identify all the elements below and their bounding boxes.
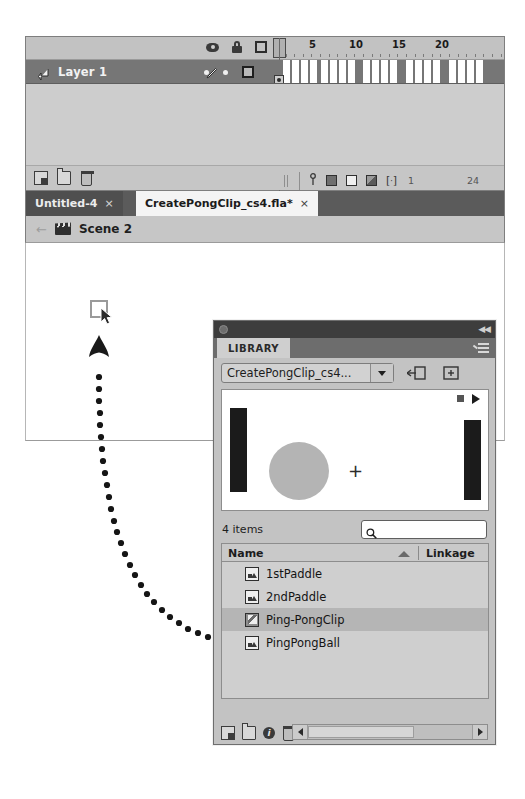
lock-dot[interactable] [223, 70, 228, 75]
list-item-label: 1stPaddle [266, 567, 322, 581]
library-footer: i [214, 721, 495, 744]
outline-color-swatch[interactable] [242, 66, 254, 78]
list-item[interactable]: 2ndPaddle [222, 585, 488, 608]
pencil-icon [204, 66, 218, 80]
arrow-cursor-icon [100, 307, 116, 327]
library-document-name: CreatePongClip_cs4... [222, 366, 351, 380]
library-title-bar[interactable]: ◀◀ [214, 321, 495, 338]
timeline-footer: [·] 1 24 [26, 165, 504, 190]
list-item-label: Ping-PongClip [266, 613, 344, 627]
play-button-icon[interactable] [472, 394, 480, 404]
stop-button-icon[interactable] [457, 395, 464, 402]
onion-skin-icon[interactable] [326, 175, 337, 186]
keyframe-marker[interactable] [274, 75, 284, 83]
scene-name-label[interactable]: Scene 2 [79, 222, 132, 236]
horizontal-scrollbar[interactable] [292, 724, 488, 740]
modify-onion-markers-icon[interactable]: [·] [386, 175, 399, 186]
clapper-board-icon [55, 223, 71, 235]
new-symbol-icon[interactable] [221, 726, 235, 740]
panel-menu-icon[interactable] [473, 343, 489, 353]
panel-grip-icon [284, 175, 290, 187]
layer-list-empty-area [26, 84, 273, 165]
list-item-label: PingPongBall [266, 636, 340, 650]
preview-ball [269, 442, 329, 500]
column-linkage-label[interactable]: Linkage [426, 547, 475, 560]
library-item-list[interactable]: 1stPaddle 2ndPaddle Ping-PongClip PingPo… [221, 562, 489, 699]
timeline-panel: 1 5 10 15 20 Layer 1 [25, 36, 505, 191]
library-document-select[interactable]: CreatePongClip_cs4... [221, 363, 394, 383]
list-item[interactable]: PingPongBall [222, 631, 488, 654]
tab-untitled-4[interactable]: Untitled-4 × [26, 191, 123, 216]
edit-multiple-frames-icon[interactable] [366, 175, 377, 186]
drag-direction-arrow [86, 335, 112, 369]
library-tab-bar: LIBRARY [214, 338, 495, 358]
pin-current-library-icon[interactable] [407, 364, 426, 382]
layer-column-header [26, 37, 273, 59]
layer-row-icons [204, 66, 254, 78]
collapse-panel-icon[interactable]: ◀◀ [478, 324, 490, 334]
scroll-right-arrow[interactable] [472, 725, 487, 739]
lock-icon[interactable] [232, 41, 242, 53]
panel-grip-icon [219, 325, 228, 334]
registration-cross-icon: + [348, 462, 363, 480]
preview-paddle-right [464, 420, 481, 500]
library-document-row: CreatePongClip_cs4... [214, 358, 495, 388]
timeline-header: 1 5 10 15 20 [26, 37, 504, 60]
close-icon[interactable]: × [104, 197, 113, 210]
new-folder-icon[interactable] [242, 726, 256, 740]
ruler-tick-15: 15 [392, 39, 406, 50]
sort-ascending-icon[interactable] [398, 551, 410, 557]
tab-createpongclip[interactable]: CreatePongClip_cs4.fla* × [136, 191, 318, 216]
library-preview[interactable]: + [221, 389, 489, 511]
tab-library[interactable]: LIBRARY [217, 338, 290, 358]
divider [299, 172, 300, 190]
outline-square-icon[interactable] [255, 41, 267, 53]
edit-bar: ← Scene 2 [25, 216, 505, 243]
ruler-tick-marks [273, 52, 504, 57]
tab-label: Untitled-4 [35, 197, 97, 210]
list-item[interactable]: 1stPaddle [222, 562, 488, 585]
search-input[interactable] [361, 520, 487, 539]
new-library-panel-icon[interactable] [442, 364, 461, 382]
layer-row-layer1[interactable]: Layer 1 [26, 60, 504, 84]
graphic-symbol-icon [245, 567, 259, 581]
scroll-left-arrow[interactable] [293, 725, 308, 739]
center-frame-icon[interactable] [309, 171, 317, 190]
new-layer-icon[interactable] [34, 171, 48, 185]
back-arrow-icon[interactable]: ← [36, 222, 47, 237]
close-icon[interactable]: × [300, 197, 309, 210]
library-footer-icons: i [221, 726, 296, 740]
movieclip-symbol-icon [245, 613, 259, 627]
item-count-label: 4 items [222, 523, 263, 536]
layer-name-label: Layer 1 [58, 65, 107, 79]
frame-strip[interactable] [273, 60, 504, 83]
search-icon [366, 524, 377, 535]
delete-layer-icon[interactable] [80, 171, 94, 185]
column-divider [418, 546, 419, 560]
library-panel: ◀◀ LIBRARY CreatePongClip_cs4... [213, 320, 496, 745]
current-frame-number: 1 [408, 175, 414, 186]
onion-skin-outlines-icon[interactable] [346, 175, 357, 186]
library-items-row: 4 items [214, 517, 495, 543]
scrollbar-thumb[interactable] [308, 726, 414, 738]
ruler-tick-20: 20 [435, 39, 449, 50]
chevron-down-icon[interactable] [370, 364, 393, 382]
graphic-symbol-icon [245, 636, 259, 650]
frame-ruler[interactable]: 1 5 10 15 20 [273, 37, 504, 59]
timeline-footer-left [34, 171, 94, 185]
tab-label: CreatePongClip_cs4.fla* [145, 197, 293, 210]
ruler-tick-5: 5 [309, 39, 316, 50]
eye-icon[interactable] [206, 43, 219, 52]
list-item-selected[interactable]: Ping-PongClip [222, 608, 488, 631]
ruler-tick-10: 10 [349, 39, 363, 50]
new-folder-icon[interactable] [57, 171, 71, 185]
preview-paddle-left [230, 408, 247, 492]
library-tab-label: LIBRARY [228, 343, 279, 354]
document-tab-bar: Untitled-4 × CreatePongClip_cs4.fla* × [25, 191, 505, 216]
ruler-numbers: 1 5 10 15 20 [273, 39, 504, 53]
library-column-header: Name Linkage [221, 543, 489, 562]
timeline-body [26, 84, 504, 165]
column-name-label[interactable]: Name [228, 547, 264, 560]
properties-icon[interactable]: i [263, 727, 275, 739]
timeline-footer-right: [·] 1 24 [284, 171, 479, 190]
